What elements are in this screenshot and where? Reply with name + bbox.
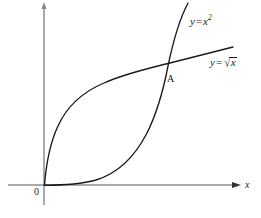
radical-overbar [229, 57, 237, 58]
curve-y-equals-x-squared [45, 3, 189, 185]
origin-label: 0 [34, 187, 39, 197]
radical-group: √x [223, 56, 235, 68]
graph-canvas [0, 0, 261, 218]
curve-label-parabola-equals: = [195, 15, 203, 27]
scan-edge-artifact [0, 40, 4, 54]
x-axis-label: x [245, 180, 249, 190]
figure-container: y=x2 y=√x A 0 x [0, 0, 261, 218]
intersection-point-label: A [167, 74, 174, 84]
radical-sign-icon: √ [225, 57, 231, 69]
curve-label-sqrt-equals: = [215, 56, 223, 68]
curve-label-parabola: y=x2 [190, 14, 212, 27]
curve-y-equals-sqrt-x [45, 47, 234, 185]
radicand: x [231, 56, 236, 68]
x-axis-arrowhead [232, 182, 241, 188]
curve-label-sqrt: y=√x [210, 56, 236, 68]
curve-label-parabola-exponent: 2 [208, 13, 212, 22]
y-axis-arrowhead [42, 2, 47, 9]
